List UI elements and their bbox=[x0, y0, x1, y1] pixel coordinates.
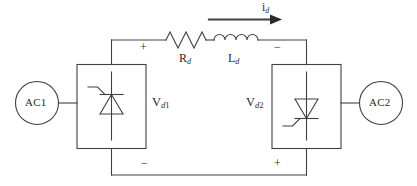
current-arrow-head bbox=[270, 15, 282, 25]
converter-2-bottom-polarity: + bbox=[274, 157, 281, 169]
resistor-label: Rd bbox=[179, 52, 191, 66]
ac-source-1-label: AC1 bbox=[25, 97, 46, 108]
ld-sub: d bbox=[235, 57, 239, 66]
converter-1-top-polarity: + bbox=[140, 41, 147, 53]
circuit-diagram-canvas: AC1 AC2 Vd1 Vd2 + − − + Rd Ld id bbox=[0, 0, 417, 186]
resistor-zigzag bbox=[166, 32, 206, 48]
ac-source-2-label: AC2 bbox=[369, 97, 390, 108]
vd1-sub-num: 1 bbox=[165, 100, 169, 110]
converter-2-voltage-label: Vd2 bbox=[246, 96, 264, 109]
converter-1-bottom-polarity: − bbox=[141, 157, 148, 169]
inductor-label: Ld bbox=[228, 52, 239, 66]
current-label: id bbox=[262, 2, 269, 15]
vd1-base: V bbox=[152, 95, 161, 109]
thyristor-2-gate-lead bbox=[283, 119, 300, 127]
rd-sub: d bbox=[187, 57, 191, 66]
id-sub: d bbox=[265, 6, 269, 15]
inductor-coil bbox=[214, 35, 258, 41]
rd-base: R bbox=[179, 51, 187, 65]
converter-1-voltage-label: Vd1 bbox=[152, 96, 170, 109]
converter-2-top-polarity: − bbox=[274, 41, 281, 53]
thyristor-1-gate-lead bbox=[88, 87, 105, 95]
circuit-schematic-svg bbox=[0, 0, 417, 186]
vd2-base: V bbox=[246, 95, 255, 109]
vd2-sub-num: 2 bbox=[259, 100, 263, 110]
